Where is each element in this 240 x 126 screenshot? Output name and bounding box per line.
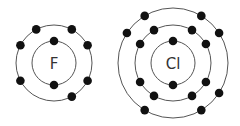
electron-dot	[215, 89, 224, 98]
electron-dot	[16, 77, 25, 86]
electron-dot	[83, 41, 92, 50]
electron-dot	[150, 92, 159, 101]
electron-dot	[169, 81, 178, 90]
electron-dot	[16, 41, 25, 50]
electron-dot	[188, 92, 197, 101]
electron-dot	[123, 29, 132, 38]
atom-symbol-chlorine: Cl	[166, 55, 181, 73]
electron-dot	[136, 78, 145, 87]
electron-dot	[136, 40, 145, 49]
electron-dot	[83, 77, 92, 86]
electron-dot	[50, 81, 59, 90]
electron-dot	[202, 40, 211, 49]
electron-dot	[169, 37, 178, 46]
electron-dot	[140, 12, 149, 21]
electron-dot	[197, 106, 206, 115]
electron-dot	[197, 12, 206, 21]
electron-dot	[140, 106, 149, 115]
electron-dot	[68, 92, 77, 101]
electron-dot	[215, 29, 224, 38]
electron-dot	[50, 37, 59, 46]
electron-dot	[68, 25, 77, 34]
electron-dot	[202, 78, 211, 87]
atom-symbol-fluorine: F	[50, 55, 59, 73]
electron-dot	[150, 26, 159, 35]
electron-dot	[32, 25, 41, 34]
atom-fluorine: F	[16, 25, 92, 101]
atom-chlorine: Cl	[118, 8, 228, 118]
electron-dot	[188, 26, 197, 35]
electron-shell-diagram: F Cl	[0, 0, 240, 126]
